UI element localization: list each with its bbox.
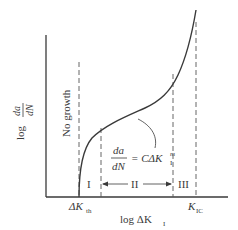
equation-leader-line	[138, 119, 156, 148]
region-ii-label: II	[131, 178, 139, 190]
crack-growth-curve	[79, 10, 196, 197]
threshold-label: ΔK th	[68, 200, 92, 215]
svg-text:K: K	[187, 200, 196, 212]
arrowhead-left	[102, 182, 108, 187]
svg-text:da: da	[113, 144, 125, 156]
region-i-label: I	[87, 178, 91, 190]
no-growth-label: No growth	[60, 89, 72, 137]
y-axis-label: log da dN	[11, 103, 35, 140]
paris-law-equation: da dN = CΔK I m	[111, 144, 175, 172]
svg-text:da: da	[11, 106, 22, 116]
svg-text:dN: dN	[112, 160, 126, 172]
crack-growth-diagram: log da dN No growth da dN = CΔK I m I II…	[0, 0, 238, 230]
x-axis-label: log ΔK I	[120, 213, 166, 228]
svg-text:= CΔK: = CΔK	[131, 152, 163, 164]
svg-text:log: log	[14, 125, 26, 140]
svg-text:ΔK: ΔK	[68, 200, 83, 212]
svg-text:IC: IC	[196, 207, 203, 215]
svg-text:th: th	[86, 207, 92, 215]
region-iii-label: III	[178, 178, 189, 190]
critical-label: K IC	[187, 200, 203, 215]
svg-text:dN: dN	[24, 103, 35, 116]
svg-text:I: I	[163, 220, 166, 228]
arrowhead-right	[166, 182, 172, 187]
svg-text:m: m	[170, 150, 175, 158]
svg-text:log ΔK: log ΔK	[120, 213, 152, 225]
